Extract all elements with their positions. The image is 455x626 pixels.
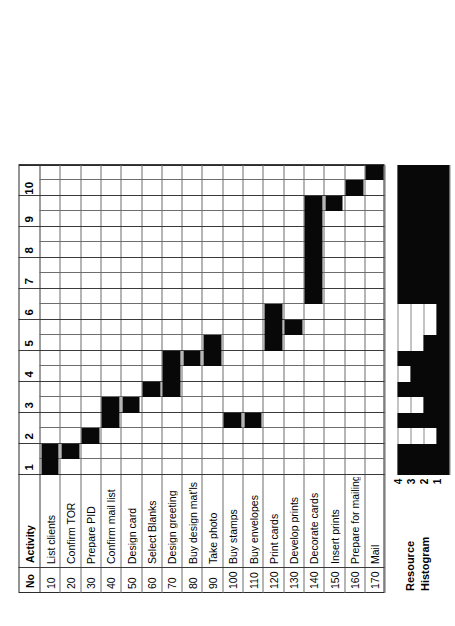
grid-row-line <box>100 165 101 593</box>
gantt-bar-30[interactable] <box>81 429 99 445</box>
grid-row-line <box>242 165 243 593</box>
time-axis-tick-2: 2 <box>22 429 35 445</box>
row-activity-80: Buy design mat'ls <box>186 477 198 564</box>
column-header-activity: Activity <box>23 476 35 563</box>
histogram-title-line1: Resource <box>403 541 416 591</box>
row-activity-40: Confirm mail list <box>104 477 116 564</box>
grid-time-line <box>39 273 384 274</box>
row-activity-130: Develop prints <box>287 477 299 564</box>
histogram-step-9[interactable] <box>397 165 449 305</box>
row-activity-10: List clients <box>44 477 56 564</box>
grid-row-line <box>283 165 284 593</box>
row-no-50: 50 <box>125 569 137 589</box>
grid-row-line <box>120 165 121 593</box>
gantt-bar-10[interactable] <box>41 444 59 475</box>
row-no-20: 20 <box>64 569 76 589</box>
grid-row-line <box>201 165 202 593</box>
grid-row-line <box>181 165 182 593</box>
row-no-80: 80 <box>186 569 198 589</box>
grid-row-line <box>303 165 304 593</box>
gantt-bar-40[interactable] <box>101 398 119 429</box>
histogram-step-8[interactable] <box>436 305 449 336</box>
grid-row-line <box>222 165 223 593</box>
row-activity-90: Take photo <box>206 477 218 564</box>
gantt-bar-70[interactable] <box>162 351 180 398</box>
grid-row-line <box>384 165 385 593</box>
row-no-160: 160 <box>348 569 360 589</box>
row-activity-100: Buy stamps <box>226 477 238 564</box>
row-no-90: 90 <box>206 569 218 589</box>
time-axis-tick-8: 8 <box>22 243 35 259</box>
grid-row-line <box>141 165 142 593</box>
grid-time-line <box>18 381 384 382</box>
histogram-step-5[interactable] <box>410 367 449 383</box>
row-no-100: 100 <box>226 569 238 589</box>
grid-row-line <box>59 165 60 593</box>
histogram-step-0[interactable] <box>397 444 449 475</box>
grid-time-line <box>18 350 384 351</box>
histogram-step-6[interactable] <box>397 351 449 367</box>
grid-row-line <box>364 165 365 593</box>
gantt-bar-160[interactable] <box>345 181 363 197</box>
row-activity-20: Confirm TOR <box>64 477 76 564</box>
gantt-bar-60[interactable] <box>142 382 160 398</box>
grid-time-line <box>18 226 384 227</box>
column-header-no: No <box>23 569 35 588</box>
histogram-step-2[interactable] <box>397 413 449 429</box>
gantt-bar-50[interactable] <box>122 398 140 414</box>
row-no-150: 150 <box>328 569 340 589</box>
grid-row-line <box>262 165 263 593</box>
row-activity-140: Decorate cards <box>307 477 319 564</box>
gantt-bar-170[interactable] <box>365 165 383 181</box>
row-activity-160: Prepare for mailing <box>348 477 360 564</box>
grid-time-line <box>39 397 384 398</box>
row-no-10: 10 <box>44 569 56 589</box>
gantt-bar-110[interactable] <box>244 413 262 429</box>
row-activity-120: Print cards <box>267 477 279 564</box>
gantt-bar-90[interactable] <box>203 336 221 367</box>
gantt-bar-140[interactable] <box>304 196 322 305</box>
time-axis-tick-6: 6 <box>22 305 35 321</box>
grid-row-line <box>323 165 324 593</box>
gantt-bar-100[interactable] <box>223 413 241 429</box>
gantt-bar-20[interactable] <box>61 444 79 460</box>
row-no-60: 60 <box>145 569 157 589</box>
gantt-bar-120[interactable] <box>264 305 282 352</box>
grid-time-line <box>39 180 384 181</box>
histogram-step-1[interactable] <box>436 429 449 445</box>
grid-time-line <box>18 288 384 289</box>
grid-time-line <box>39 459 384 460</box>
time-axis-tick-4: 4 <box>22 367 35 383</box>
grid-time-line <box>18 257 384 258</box>
row-no-40: 40 <box>104 569 116 589</box>
histogram-level-label-3: 3 <box>405 476 416 487</box>
histogram-step-3[interactable] <box>423 398 449 414</box>
grid-time-line <box>39 242 384 243</box>
resource-histogram: ResourceHistogram1234 <box>397 165 455 593</box>
row-activity-70: Design greeting <box>165 477 177 564</box>
row-activity-150: Insert prints <box>328 477 340 564</box>
grid-row-line <box>80 165 81 593</box>
row-no-70: 70 <box>165 569 177 589</box>
grid-col-separator <box>18 567 384 568</box>
grid-time-line <box>39 304 384 305</box>
time-axis-tick-10: 10 <box>22 181 35 197</box>
gantt-bar-130[interactable] <box>284 320 302 336</box>
grid-row-line <box>161 165 162 593</box>
gantt-bar-150[interactable] <box>325 196 343 212</box>
histogram-step-7[interactable] <box>423 336 449 352</box>
row-no-120: 120 <box>267 569 279 589</box>
gantt-bar-80[interactable] <box>183 351 201 367</box>
row-no-130: 130 <box>287 569 299 589</box>
row-activity-60: Select Blanks <box>145 477 157 564</box>
row-activity-50: Design card <box>125 477 137 564</box>
grid-row-line <box>344 165 345 593</box>
row-activity-110: Buy envelopes <box>247 477 259 564</box>
grid-time-line <box>18 474 384 475</box>
time-axis-tick-3: 3 <box>22 398 35 414</box>
histogram-step-4[interactable] <box>397 382 449 398</box>
histogram-title-line2: Histogram <box>418 537 431 591</box>
grid-time-line <box>18 319 384 320</box>
time-axis-tick-1: 1 <box>22 460 35 476</box>
